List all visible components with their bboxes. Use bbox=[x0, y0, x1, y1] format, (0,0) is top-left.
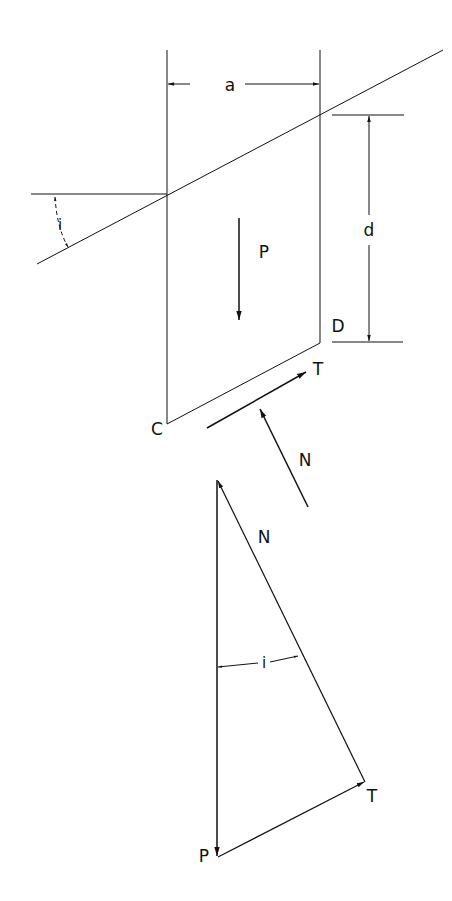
label-T-triangle: T bbox=[366, 786, 378, 806]
label-T-block: T bbox=[312, 359, 324, 379]
label-a: a bbox=[225, 75, 235, 95]
triangle-N-vector bbox=[218, 481, 365, 782]
label-P-block: P bbox=[259, 242, 269, 262]
label-i-slope: i bbox=[58, 216, 62, 234]
triangle-T-vector bbox=[218, 782, 364, 857]
triangle-angle-right bbox=[270, 656, 298, 662]
label-N-block: N bbox=[299, 450, 312, 470]
sliding-block-force-diagram: a d i P D T C N N i T P bbox=[0, 0, 452, 901]
shear-arrow-T bbox=[207, 372, 306, 428]
block-base bbox=[167, 343, 320, 424]
label-N-triangle: N bbox=[258, 527, 271, 547]
slope-line bbox=[37, 50, 443, 264]
label-i-triangle: i bbox=[262, 654, 266, 672]
label-d: d bbox=[364, 220, 375, 240]
label-P-triangle: P bbox=[199, 846, 209, 866]
label-D: D bbox=[331, 316, 344, 336]
triangle-angle-left bbox=[218, 663, 258, 667]
label-C: C bbox=[151, 419, 163, 439]
